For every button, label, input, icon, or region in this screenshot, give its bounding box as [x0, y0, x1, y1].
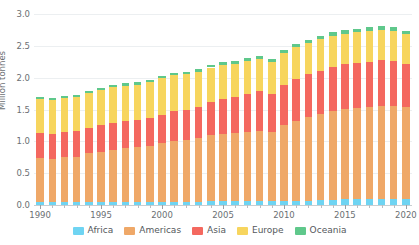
- bar-segment-asia[interactable]: [170, 111, 178, 141]
- bar-segment-oceania[interactable]: [158, 76, 166, 79]
- bar-1993[interactable]: [73, 14, 81, 205]
- bar-1995[interactable]: [97, 14, 105, 205]
- bar-segment-americas[interactable]: [49, 159, 57, 202]
- bar-segment-americas[interactable]: [207, 135, 215, 201]
- legend-item-americas[interactable]: Americas: [124, 226, 181, 235]
- bar-segment-oceania[interactable]: [97, 88, 105, 90]
- bar-segment-oceania[interactable]: [366, 27, 374, 31]
- bar-segment-oceania[interactable]: [49, 98, 57, 100]
- bar-segment-americas[interactable]: [280, 125, 288, 200]
- bar-segment-europe[interactable]: [292, 47, 300, 79]
- bar-segment-americas[interactable]: [122, 148, 130, 202]
- bar-2002[interactable]: [183, 14, 191, 205]
- bar-segment-oceania[interactable]: [195, 69, 203, 72]
- bar-segment-oceania[interactable]: [280, 50, 288, 53]
- bar-segment-oceania[interactable]: [329, 32, 337, 36]
- bar-segment-oceania[interactable]: [219, 62, 227, 65]
- bar-segment-oceania[interactable]: [61, 96, 69, 98]
- bar-segment-americas[interactable]: [85, 153, 93, 201]
- bar-segment-asia[interactable]: [268, 94, 276, 132]
- bar-segment-oceania[interactable]: [317, 36, 325, 39]
- bar-segment-europe[interactable]: [219, 65, 227, 99]
- bar-segment-asia[interactable]: [146, 118, 154, 145]
- bar-2005[interactable]: [219, 14, 227, 205]
- bar-segment-europe[interactable]: [366, 31, 374, 62]
- bar-segment-europe[interactable]: [36, 99, 44, 133]
- bar-segment-oceania[interactable]: [122, 83, 130, 86]
- bar-segment-oceania[interactable]: [244, 58, 252, 61]
- bar-2001[interactable]: [170, 14, 178, 205]
- bar-1992[interactable]: [61, 14, 69, 205]
- bar-segment-americas[interactable]: [390, 106, 398, 199]
- bar-segment-europe[interactable]: [122, 86, 130, 121]
- bar-segment-europe[interactable]: [61, 98, 69, 132]
- bar-segment-oceania[interactable]: [378, 26, 386, 30]
- bar-segment-asia[interactable]: [390, 61, 398, 106]
- bar-segment-oceania[interactable]: [390, 27, 398, 31]
- bar-2013[interactable]: [317, 14, 325, 205]
- bar-segment-oceania[interactable]: [292, 44, 300, 47]
- bar-segment-asia[interactable]: [158, 115, 166, 143]
- bar-2009[interactable]: [268, 14, 276, 205]
- bar-segment-asia[interactable]: [256, 91, 264, 130]
- bar-segment-oceania[interactable]: [402, 31, 410, 35]
- bar-2003[interactable]: [195, 14, 203, 205]
- bar-segment-americas[interactable]: [353, 108, 361, 199]
- bar-segment-europe[interactable]: [341, 34, 349, 65]
- bar-segment-americas[interactable]: [134, 147, 142, 202]
- bar-segment-asia[interactable]: [97, 125, 105, 151]
- bar-segment-europe[interactable]: [207, 68, 215, 102]
- bar-2016[interactable]: [353, 14, 361, 205]
- bar-segment-europe[interactable]: [378, 30, 386, 61]
- bar-segment-europe[interactable]: [49, 100, 57, 134]
- bar-segment-americas[interactable]: [146, 146, 154, 202]
- bar-2010[interactable]: [280, 14, 288, 205]
- bar-1991[interactable]: [49, 14, 57, 205]
- bar-segment-asia[interactable]: [305, 74, 313, 117]
- bar-segment-asia[interactable]: [49, 134, 57, 159]
- bar-segment-americas[interactable]: [158, 143, 166, 202]
- bar-segment-americas[interactable]: [402, 107, 410, 199]
- bar-segment-asia[interactable]: [231, 97, 239, 133]
- bar-segment-oceania[interactable]: [268, 59, 276, 62]
- bar-2007[interactable]: [244, 14, 252, 205]
- bar-segment-europe[interactable]: [317, 39, 325, 70]
- bar-2014[interactable]: [329, 14, 337, 205]
- bar-segment-americas[interactable]: [170, 141, 178, 202]
- bar-segment-asia[interactable]: [317, 71, 325, 114]
- bar-segment-europe[interactable]: [170, 75, 178, 111]
- bar-segment-oceania[interactable]: [85, 91, 93, 93]
- bar-segment-europe[interactable]: [134, 85, 142, 121]
- bar-segment-americas[interactable]: [329, 111, 337, 199]
- bar-2008[interactable]: [256, 14, 264, 205]
- bar-segment-europe[interactable]: [73, 97, 81, 131]
- bar-segment-oceania[interactable]: [183, 72, 191, 75]
- bar-segment-asia[interactable]: [341, 64, 349, 109]
- bar-segment-americas[interactable]: [256, 131, 264, 202]
- bar-segment-oceania[interactable]: [231, 61, 239, 64]
- bar-segment-oceania[interactable]: [73, 95, 81, 97]
- bar-segment-americas[interactable]: [378, 106, 386, 199]
- bar-segment-americas[interactable]: [183, 140, 191, 202]
- bar-segment-asia[interactable]: [280, 85, 288, 125]
- bar-segment-oceania[interactable]: [207, 65, 215, 68]
- bar-segment-asia[interactable]: [244, 94, 252, 132]
- bar-segment-oceania[interactable]: [256, 56, 264, 59]
- bar-2012[interactable]: [305, 14, 313, 205]
- bar-segment-europe[interactable]: [158, 78, 166, 114]
- bar-segment-europe[interactable]: [97, 90, 105, 126]
- bar-segment-americas[interactable]: [97, 152, 105, 202]
- bar-segment-asia[interactable]: [73, 131, 81, 156]
- bar-2017[interactable]: [366, 14, 374, 205]
- bar-segment-oceania[interactable]: [134, 82, 142, 85]
- bar-segment-asia[interactable]: [134, 120, 142, 147]
- bar-segment-europe[interactable]: [390, 31, 398, 61]
- bar-segment-oceania[interactable]: [146, 80, 154, 83]
- legend-item-oceania[interactable]: Oceania: [295, 226, 347, 235]
- bar-segment-europe[interactable]: [244, 61, 252, 93]
- bar-segment-europe[interactable]: [402, 34, 410, 63]
- bar-segment-asia[interactable]: [61, 132, 69, 157]
- bar-2006[interactable]: [231, 14, 239, 205]
- bar-segment-europe[interactable]: [183, 74, 191, 109]
- bar-segment-europe[interactable]: [329, 36, 337, 67]
